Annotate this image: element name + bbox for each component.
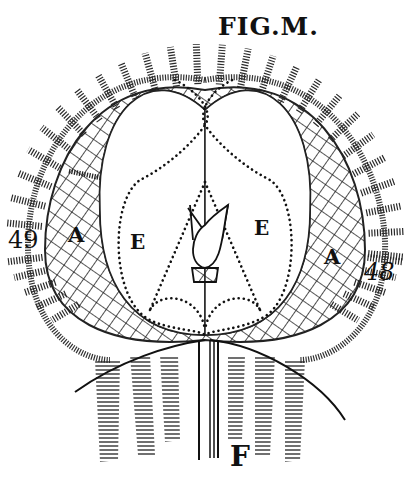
stalk: [199, 340, 218, 460]
label-a-right: A: [324, 246, 340, 267]
label-e-right: E: [254, 218, 269, 238]
label-48: 48: [364, 260, 395, 284]
label-f: F: [230, 443, 250, 471]
figure-title: FIG.M.: [218, 14, 319, 39]
illustration-svg: [0, 0, 410, 481]
label-49: 49: [8, 228, 39, 252]
label-a-left: A: [68, 224, 84, 245]
label-e-left: E: [130, 232, 145, 252]
